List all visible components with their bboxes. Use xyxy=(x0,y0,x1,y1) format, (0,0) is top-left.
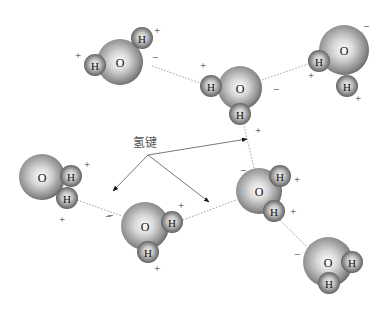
negative-charge-icon: − xyxy=(152,51,158,63)
hydrogen-bond-line xyxy=(152,66,200,83)
pointer-arrow xyxy=(113,155,148,191)
oxygen-label: O xyxy=(255,185,264,199)
positive-charge-icon: + xyxy=(75,49,81,61)
positive-charge-icon: + xyxy=(154,262,160,274)
negative-charge-icon: − xyxy=(363,20,369,32)
positive-charge-icon: + xyxy=(308,69,314,81)
hydrogen-label: H xyxy=(325,278,333,290)
hydrogen-label: H xyxy=(67,171,75,183)
positive-charge-icon: + xyxy=(59,213,65,225)
positive-charge-icon: + xyxy=(200,59,206,71)
positive-charge-icon: + xyxy=(290,205,296,217)
hydrogen-bond-diagram: OHH++−OHH+−+OHH−++OHH++−OHH−++OHH−++OHH−… xyxy=(0,0,389,315)
negative-charge-icon: − xyxy=(273,83,279,95)
hydrogen-label: H xyxy=(276,171,284,183)
negative-charge-icon: − xyxy=(107,209,113,221)
oxygen-label: O xyxy=(236,82,245,96)
positive-charge-icon: + xyxy=(84,158,90,170)
pointer-arrow xyxy=(148,155,209,202)
water-molecule: OHH+−+ xyxy=(200,59,279,136)
oxygen-label: O xyxy=(116,56,125,70)
hydrogen-label: H xyxy=(315,56,323,68)
water-molecule: OHH−++ xyxy=(236,164,300,222)
hydrogen-bond-line xyxy=(183,200,236,220)
oxygen-label: O xyxy=(340,44,349,58)
positive-charge-icon: + xyxy=(154,24,160,36)
hydrogen-bond-line xyxy=(280,220,306,246)
negative-charge-icon: − xyxy=(294,248,300,260)
hydrogen-label: H xyxy=(343,81,351,93)
positive-charge-icon: + xyxy=(294,173,300,185)
hydrogen-bond-line xyxy=(244,126,254,168)
water-molecule: OHH− xyxy=(294,237,363,294)
pointer-arrow xyxy=(148,139,247,155)
hydrogen-label: H xyxy=(207,81,215,93)
hydrogen-label: H xyxy=(236,109,244,121)
negative-charge-icon: − xyxy=(240,164,246,176)
hydrogen-label: H xyxy=(144,247,152,259)
hydrogen-label: H xyxy=(348,257,356,269)
water-molecules-layer: OHH++−OHH+−+OHH−++OHH++−OHH−++OHH−++OHH− xyxy=(19,20,369,294)
positive-charge-icon: + xyxy=(355,92,361,104)
oxygen-label: O xyxy=(38,171,47,185)
water-molecule: OHH−++ xyxy=(308,20,369,104)
hydrogen-bond-line xyxy=(77,200,122,216)
water-molecule: OHH++− xyxy=(75,24,160,85)
positive-charge-icon: + xyxy=(255,124,261,136)
water-molecule: OHH++− xyxy=(19,154,111,225)
oxygen-label: O xyxy=(324,256,333,270)
hydrogen-label: H xyxy=(91,60,99,72)
hydrogen-bond-label: 氢键 xyxy=(133,135,157,150)
water-molecule: OHH−++ xyxy=(107,199,184,274)
hydrogen-label: H xyxy=(138,33,146,45)
hydrogen-label: H xyxy=(63,193,71,205)
hydrogen-label: H xyxy=(168,217,176,229)
positive-charge-icon: + xyxy=(178,199,184,211)
hydrogen-bond-line xyxy=(262,64,308,80)
oxygen-label: O xyxy=(141,220,150,234)
hydrogen-label: H xyxy=(270,206,278,218)
